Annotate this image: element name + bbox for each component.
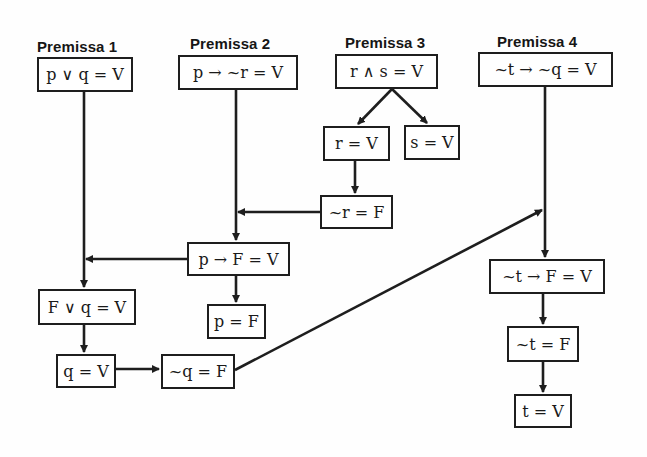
premise-box-4: ~t → ~q = V <box>478 52 613 87</box>
node-p-impl-F: p → F = V <box>187 242 290 276</box>
premise-label-4: Premissa 4 <box>497 33 577 50</box>
premise-box-2: p → ~r = V <box>178 55 298 90</box>
premise-box-1: p ∨ q = V <box>37 57 133 92</box>
node-r-true: r = V <box>323 126 390 161</box>
node-s-true: s = V <box>404 125 460 160</box>
node-F-or-q: F ∨ q = V <box>38 289 136 325</box>
logic-flowchart: Premissa 1 Premissa 2 Premissa 3 Premiss… <box>0 0 647 457</box>
node-not-t-impl-F: ~t → F = V <box>489 259 605 294</box>
premise-label-1: Premissa 1 <box>37 38 117 55</box>
node-q-true: q = V <box>56 354 116 388</box>
node-p-false: p = F <box>207 304 266 339</box>
node-not-q-false: ~q = F <box>161 354 235 389</box>
node-not-r-false: ~r = F <box>320 195 393 229</box>
premise-box-3: r ∧ s = V <box>335 54 438 89</box>
premise-label-3: Premissa 3 <box>345 34 425 51</box>
node-t-true: t = V <box>514 394 572 428</box>
node-not-t-false: ~t = F <box>507 326 579 362</box>
premise-label-2: Premissa 2 <box>190 35 270 52</box>
